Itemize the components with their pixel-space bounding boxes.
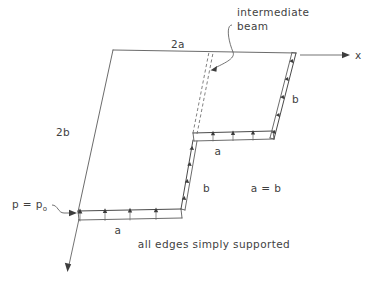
middle-loaded-strip <box>193 130 274 141</box>
load-arrow-head <box>211 131 215 136</box>
lower-right-edge-band <box>181 140 197 210</box>
pressure-leader <box>52 205 77 216</box>
intermediate-beam-dash-b <box>197 53 213 134</box>
label-left-edge-2b: 2b <box>56 126 70 138</box>
label-top-edge-2a: 2a <box>171 38 185 50</box>
intermediate-beam-dash-a <box>193 52 209 133</box>
load-arrow-head <box>231 130 235 135</box>
support-tick-icon <box>182 196 187 200</box>
label-intermediate-beam-line1: intermediate <box>237 6 309 18</box>
intermediate-beam-leader-arrow <box>211 66 218 72</box>
lower-right-band-bottom-cap <box>181 209 185 210</box>
label-edge-lower-right-b: b <box>203 182 210 194</box>
plate-left-edge <box>78 50 113 212</box>
label-strip-bottom-a: a <box>115 224 122 236</box>
label-axis-x: x <box>355 49 362 61</box>
plate-top-edge <box>113 50 296 53</box>
label-strip-middle-a: a <box>215 145 222 157</box>
pressure-leader-curve <box>52 205 71 213</box>
label-intermediate-beam-line2: beam <box>237 20 268 32</box>
label-boundary-condition: all edges simply supported <box>138 238 290 250</box>
label-pressure-main: p = p <box>12 198 43 210</box>
y-axis-shaft <box>69 219 79 265</box>
x-axis <box>300 52 350 58</box>
label-pressure-subscript: o <box>43 205 48 213</box>
bottom-loaded-strip <box>78 207 182 221</box>
x-axis-arrow-head <box>342 52 350 58</box>
bottom-strip-right-cap <box>181 209 182 218</box>
diagram-canvas: 2a 2b intermediate beam x p = po a a b b… <box>0 0 377 290</box>
label-relation-a-equals-b: a = b <box>251 182 282 194</box>
intermediate-beam-dashed-lines <box>193 52 213 134</box>
label-edge-upper-right-b: b <box>292 93 299 105</box>
upper-right-band-inner <box>270 53 292 139</box>
upper-right-band-top-cap <box>292 53 296 54</box>
intermediate-beam-leader-curve <box>215 25 233 68</box>
middle-strip-bottom-rail <box>194 139 274 141</box>
y-axis <box>65 219 79 272</box>
label-pressure: p = po <box>12 198 48 213</box>
bottom-strip-bottom-rail <box>79 218 182 220</box>
y-axis-arrow-head <box>65 263 71 272</box>
load-arrow-head <box>251 130 255 135</box>
pressure-leader-arrow <box>69 210 77 216</box>
intermediate-beam-leader <box>211 25 234 72</box>
engineering-diagram-figure: 2a 2b intermediate beam x p = po a a b b… <box>0 0 377 290</box>
